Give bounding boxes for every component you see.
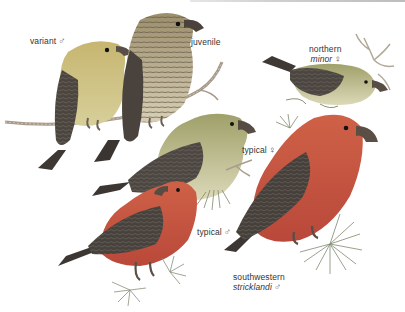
female-symbol-icon: ♀ [269,144,276,155]
male-symbol-icon: ♂ [274,281,281,292]
label-variant-male: variant♂ [30,36,65,46]
bird-variant-male [38,41,132,170]
female-symbol-icon: ♀ [334,53,341,64]
bird-typical-male [58,181,197,306]
label-northern-minor-female: northern minor♀ [309,44,341,64]
label-juvenile: juvenile [191,37,221,47]
label-typical-male: typical♂ [197,227,231,237]
label-typical-female: typical♀ [242,145,276,155]
bird-southwestern-stricklandi-male [224,114,378,274]
illustration-plate: variant♂ juvenile northern minor♀ typica… [0,0,405,312]
male-symbol-icon: ♂ [224,226,231,237]
male-symbol-icon: ♂ [58,35,65,46]
label-southwestern-stricklandi-male: southwestern stricklandi♂ [233,272,285,292]
